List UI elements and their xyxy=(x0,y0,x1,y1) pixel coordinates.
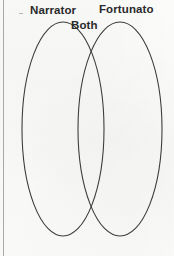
set-label-narrator: Narrator xyxy=(30,4,76,16)
ellipse-outline-icon-left[interactable] xyxy=(22,22,104,236)
venn-diagram-svg xyxy=(0,0,174,256)
venn-diagram-page: Narrator Fortunato Both xyxy=(0,0,174,256)
set-label-fortunato: Fortunato xyxy=(99,3,154,15)
set-label-both: Both xyxy=(71,19,98,31)
ellipse-outline-icon-right[interactable] xyxy=(78,22,162,236)
